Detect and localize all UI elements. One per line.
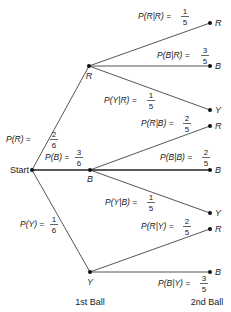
node-yr [208,227,212,231]
prob-r-r: P(R|R) = 1 5 [138,7,189,27]
leaf-ry-label: Y [215,105,222,115]
node-bb [208,168,212,172]
node-start [30,168,34,172]
prob-den: 5 [185,228,190,237]
prob-den: 5 [202,285,207,294]
prob-text: P(B|R) = [157,50,190,60]
edge-y-r [90,229,210,272]
prob-text: P(R) = [6,134,31,144]
prob-den: 6 [52,141,57,150]
leaf-rb-label: B [215,61,221,71]
leaf-yb-label: B [215,267,221,277]
prob-r-b: P(B|R) = 3 5 [157,46,209,66]
prob-den: 5 [149,204,154,213]
prob-den: 5 [185,125,190,134]
prob-num: 1 [183,7,188,16]
prob-first-b: P(B) = 3 6 [45,148,83,168]
prob-num: 2 [185,114,190,123]
node-by [208,211,212,215]
prob-first-y: P(Y) = 1 6 [20,215,58,235]
prob-y-r: P(R|Y) = 2 5 [141,217,191,237]
prob-num: 3 [77,148,82,157]
probability-tree-diagram: Start R B Y R B Y R B Y R B P(R) = 2 6 P… [0,0,231,312]
node-rr [208,21,212,25]
node-first-b [88,168,92,172]
prob-b-b: P(B|B) = 2 5 [160,148,210,168]
stage-label-second: 2nd Ball [191,297,224,307]
leaf-br-label: R [215,121,222,131]
prob-den: 5 [149,102,154,111]
node-first-r [87,64,91,68]
prob-num: 1 [149,193,154,202]
prob-text: P(R|B) = [141,118,174,128]
prob-num: 2 [185,217,190,226]
first-r-label: R [86,71,93,81]
prob-b-y: P(Y|B) = 1 5 [105,193,155,213]
edge-r-r [89,23,210,66]
leaf-rr-label: R [215,18,222,28]
prob-text: P(B|Y) = [158,278,190,288]
prob-y-b: P(B|Y) = 3 5 [158,274,208,294]
node-yb [208,270,212,274]
prob-r-y: P(Y|R) = 1 5 [104,91,155,111]
first-y-label: Y [87,277,94,287]
prob-den: 5 [204,159,209,168]
prob-text: P(R|R) = [138,11,171,21]
prob-text: P(R|Y) = [141,221,174,231]
prob-num: 3 [203,46,208,55]
prob-text: P(Y) = [20,219,44,229]
node-first-y [88,270,92,274]
edges-second-draw [89,23,210,272]
prob-num: 2 [204,148,209,157]
prob-den: 5 [203,57,208,66]
edge-b-r [90,126,210,170]
first-b-label: B [87,174,93,184]
stage-label-first: 1st Ball [75,297,105,307]
prob-den: 6 [52,226,57,235]
prob-num: 1 [149,91,154,100]
prob-num: 1 [52,215,57,224]
prob-den: 5 [183,18,188,27]
start-label: Start [10,165,30,175]
prob-text: P(B|B) = [160,152,192,162]
edges-first-draw [32,66,90,272]
leaf-by-label: Y [215,208,222,218]
prob-first-r: P(R) = 2 6 [6,130,58,150]
node-rb [208,64,212,68]
node-ry [208,108,212,112]
leaf-bb-label: B [215,165,221,175]
node-br [208,124,212,128]
prob-b-r: P(R|B) = 2 5 [141,114,191,134]
prob-num: 2 [52,130,57,139]
prob-text: P(Y|B) = [105,197,137,207]
prob-text: P(Y|R) = [104,95,137,105]
prob-den: 6 [77,159,82,168]
prob-num: 3 [202,274,207,283]
prob-text: P(B) = [45,152,69,162]
leaf-yr-label: R [215,224,222,234]
